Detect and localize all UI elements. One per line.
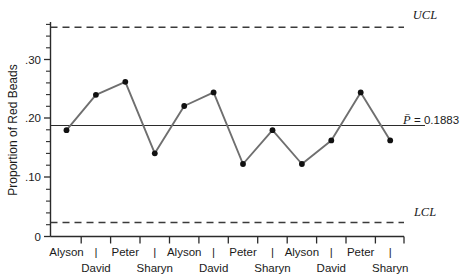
x-label-lower: David [81,262,110,274]
ytick-label-0: 0 [35,231,41,243]
control-chart: 0 .10 .20 .30 Proportion of Red Beads UC… [0,0,461,279]
data-point [211,90,217,96]
data-point [328,138,334,144]
x-separator: | [94,246,97,258]
x-separator: | [153,246,156,258]
ytick-label-10: .10 [25,171,41,183]
data-point [122,79,128,85]
series-polyline [67,82,391,164]
center-line-symbol: P̄ [402,113,411,127]
x-label-lower: David [317,262,346,274]
data-point [240,161,246,167]
x-separator: | [330,246,333,258]
x-label-upper: Alyson [49,246,84,258]
data-point [181,103,187,109]
x-label-upper: Alyson [285,246,320,258]
x-label-lower: David [199,262,228,274]
x-labels-lower: David Sharyn David Sharyn David Sharyn [81,262,408,274]
x-ticks [81,237,404,244]
data-point [358,90,364,96]
x-label-upper: Peter [347,246,375,258]
x-label-upper: Peter [229,246,257,258]
data-point [93,92,99,98]
data-point [270,127,276,133]
data-point [64,127,70,133]
y-axis-title: Proportion of Red Beads [6,64,20,195]
data-point [299,161,305,167]
ucl-label: UCL [413,8,437,22]
data-point [152,150,158,156]
ytick-label-30: .30 [25,54,41,66]
data-point [387,138,393,144]
chart-canvas: 0 .10 .20 .30 Proportion of Red Beads UC… [0,0,461,279]
x-label-upper: Alyson [167,246,202,258]
x-label-upper: Peter [112,246,140,258]
x-label-lower: Sharyn [137,262,173,274]
center-line-value: = 0.1883 [414,114,459,126]
x-label-lower: Sharyn [372,262,408,274]
x-label-lower: Sharyn [254,262,290,274]
x-separator: | [212,246,215,258]
x-separator: | [389,246,392,258]
x-separator: | [271,246,274,258]
ytick-label-20: .20 [25,112,41,124]
y-major-ticks [44,60,51,237]
lcl-label: LCL [413,205,436,219]
series-points [64,79,394,167]
